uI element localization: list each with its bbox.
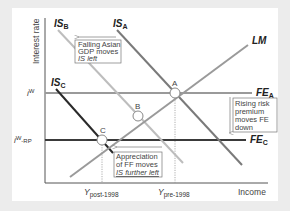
y-tick-iw-rp: iW-RP xyxy=(14,135,32,145)
is-c-label: ISC xyxy=(51,77,66,89)
point-a-label: A xyxy=(172,79,178,88)
y-axis-label: Interest rate xyxy=(31,18,41,64)
is-b-label: ISB xyxy=(54,18,69,30)
is-a-curve xyxy=(117,30,242,165)
x-tick-pre1998: Ypre-1998 xyxy=(158,187,190,199)
fe-a-label: FEA xyxy=(256,87,274,99)
is-lm-fe-diagram: Interest rate Income A B C ISB ISA ISC L… xyxy=(0,0,290,211)
point-b-label: B xyxy=(135,102,140,111)
lm-label: LM xyxy=(252,35,267,46)
point-a xyxy=(170,88,180,98)
x-axis-label: Income xyxy=(238,187,266,197)
y-tick-iw: iW xyxy=(27,88,35,98)
point-c xyxy=(97,135,107,145)
point-c-label: C xyxy=(100,126,106,135)
is-a-label: ISA xyxy=(113,18,128,30)
note-appreciation: Appreciation of FF moves IS further left xyxy=(116,152,160,177)
fe-c-label: FEC xyxy=(250,134,268,146)
x-tick-post1998: Ypost-1998 xyxy=(84,187,119,199)
point-b xyxy=(133,111,143,121)
